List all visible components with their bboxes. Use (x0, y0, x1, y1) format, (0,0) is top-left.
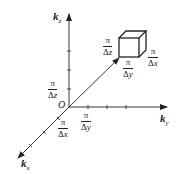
k-vector (69, 58, 119, 107)
origin-label: O (58, 100, 65, 110)
axis-x-spacing-label: π Δx (58, 118, 68, 139)
k-space-diagram: kz ky kx O π Δz π Δy π Δx π Δz π Δy π Δx (0, 0, 178, 174)
axis-y-spacing-label: π Δy (81, 111, 91, 132)
axes-graphic (0, 0, 178, 174)
cube-x-size-label: π Δx (148, 47, 158, 68)
cube-y-size-label: π Δy (123, 58, 133, 79)
kx-axis-label: kx (21, 158, 30, 172)
cube-z-size-label: π Δz (103, 36, 112, 57)
cube (119, 31, 146, 57)
axis-z-spacing-label: π Δz (48, 79, 57, 100)
kz-axis-label: kz (53, 11, 61, 25)
ky-axis-label: ky (160, 113, 169, 127)
